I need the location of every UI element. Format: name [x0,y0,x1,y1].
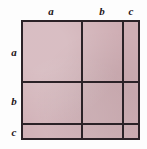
horizontal-divider-a-b [23,81,138,83]
column-label-c: c [124,6,138,17]
row-label-c: c [7,127,21,138]
column-label-b: b [95,6,109,17]
grid-square [21,20,140,140]
column-label-a: a [44,6,58,17]
vertical-divider-b-c [122,22,124,138]
area-model-figure: a b c a b c [0,0,147,149]
vertical-divider-a-b [81,22,83,138]
row-label-a: a [7,47,21,58]
row-label-b: b [7,96,21,107]
horizontal-divider-b-c [23,123,138,125]
